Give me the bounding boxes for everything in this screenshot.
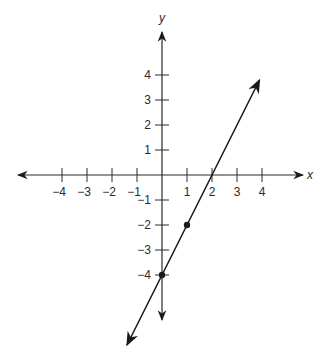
y-tick-label: 3 xyxy=(144,93,151,107)
point-marker xyxy=(184,222,190,228)
y-tick-label: −1 xyxy=(137,193,151,207)
x-tick-label: 1 xyxy=(184,185,191,199)
y-tick-label: −3 xyxy=(137,243,151,257)
point-marker xyxy=(159,272,165,278)
x-tick-label: −3 xyxy=(77,185,91,199)
y-tick-label: 1 xyxy=(144,143,151,157)
x-tick-label: −4 xyxy=(52,185,66,199)
y-axis-label: y xyxy=(158,11,166,25)
x-axis-label: x xyxy=(306,168,314,182)
x-tick-label: −2 xyxy=(102,185,116,199)
y-tick-label: 2 xyxy=(144,118,151,132)
y-tick-label: −2 xyxy=(137,218,151,232)
y-tick-label: −4 xyxy=(137,268,151,282)
coordinate-plane: −4−3−2−112344321−1−2−3−4 x y xyxy=(0,0,334,358)
x-tick-label: 3 xyxy=(234,185,241,199)
x-tick-label: 4 xyxy=(259,185,266,199)
y-tick-label: 4 xyxy=(144,68,151,82)
x-tick-label: 2 xyxy=(209,185,216,199)
